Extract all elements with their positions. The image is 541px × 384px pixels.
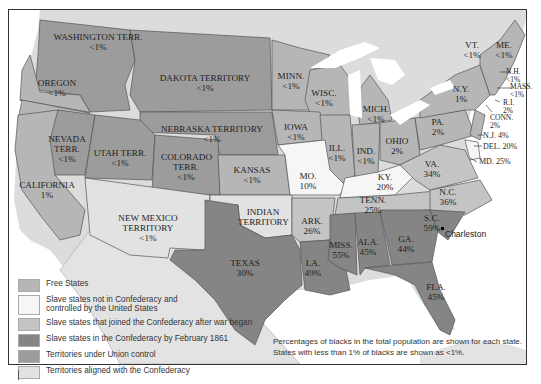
legend-item-slave-union: Slave states not in Confederacy andcontr…	[18, 295, 252, 315]
label-me: ME.<1%	[495, 40, 512, 60]
label-vt: VT.<1%	[463, 40, 480, 60]
margin-tick	[18, 370, 19, 380]
label-new-mexico-territory: NEW MEXICO TERRITORY<1%	[118, 213, 178, 243]
label-california: CALIFORNIA1%	[19, 180, 75, 200]
legend-swatch	[18, 366, 40, 379]
label-oregon: OREGON<1%	[38, 78, 76, 98]
legend-swatch	[18, 334, 40, 347]
label-indian-territory: INDIAN TERRITORY	[238, 207, 288, 227]
label-miss: MISS.55%	[329, 240, 353, 260]
label-nebraska-territory: NEBRASKA TERRITORY<1%	[161, 124, 263, 144]
label-nj: N.J. 4%	[483, 131, 509, 141]
legend-swatch	[18, 350, 40, 363]
legend-swatch	[18, 295, 40, 315]
label-conn: CONN.2%	[490, 114, 513, 130]
label-ny: N.Y.1%	[453, 84, 470, 104]
region-dakota-territory	[130, 30, 272, 112]
label-mich: MICH.<1%	[363, 104, 389, 124]
label-ohio: OHIO2%	[386, 136, 409, 156]
label-dakota-territory: DAKOTA TERRITORY<1%	[160, 73, 251, 93]
label-utah-terr: UTAH TERR.<1%	[94, 148, 147, 168]
label-wisc: WISC.<1%	[311, 88, 336, 108]
legend-item-territory-confederacy: Territories aligned with the Confederacy	[18, 366, 252, 379]
label-washington-terr: WASHINGTON TERR.<1%	[54, 32, 143, 52]
label-ind: IND.<1%	[357, 146, 376, 166]
label-mass: MASS.<1%	[510, 83, 532, 99]
label-minn: MINN.<1%	[278, 71, 305, 91]
label-md: MD. 25%	[479, 157, 511, 167]
label-nc: N.C.36%	[439, 187, 456, 207]
label-ala: ALA.45%	[357, 237, 378, 257]
label-ky: KY.20%	[377, 172, 394, 192]
legend-item-slave-joined-later: Slave states that joined the Confederacy…	[18, 318, 252, 331]
legend-item-slave-confederacy: Slave states in the Confederacy by Febru…	[18, 334, 252, 347]
label-texas: TEXAS30%	[230, 258, 260, 278]
legend-item-territory-union: Territories under Union control	[18, 350, 252, 363]
label-del: DEL. 20%	[483, 142, 517, 152]
label-fla: FLA.45%	[426, 282, 446, 302]
legend-item-free-states: Free States	[18, 279, 252, 292]
label-ill: ILL.<1%	[328, 143, 345, 163]
label-ark: ARK.26%	[301, 216, 323, 236]
label-pa: PA.2%	[431, 117, 444, 137]
label-kansas: KANSAS<1%	[234, 165, 271, 185]
label-iowa: IOWA<1%	[284, 122, 308, 142]
legend: Free States Slave states not in Confeder…	[18, 279, 252, 382]
map-note: Percentages of blacks in the total popul…	[273, 336, 522, 358]
label-ga: GA.44%	[398, 234, 415, 254]
charleston-marker	[441, 227, 444, 230]
label-mo: MO.10%	[299, 171, 316, 191]
legend-swatch	[18, 318, 40, 331]
label-charleston: Charleston	[445, 229, 486, 239]
label-colorado-terr: COLORADO TERR.<1%	[161, 152, 211, 182]
label-tenn: TENN.25%	[360, 195, 387, 215]
legend-swatch	[18, 279, 40, 292]
label-sc: S.C.59%	[424, 213, 441, 233]
label-va: VA.34%	[424, 159, 441, 179]
label-nevada-terr: NEVADA TERR.<1%	[47, 134, 87, 164]
label-la: LA.49%	[305, 258, 322, 278]
